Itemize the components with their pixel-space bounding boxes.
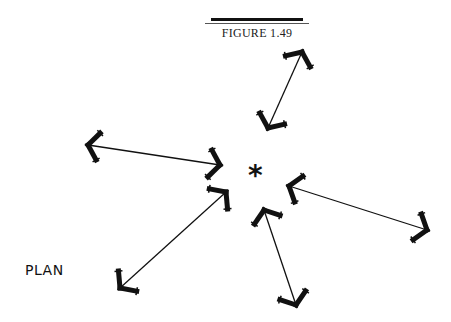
arrow-left (88, 130, 220, 179)
plan-diagram: * (0, 0, 451, 322)
plan-label: PLAN (25, 262, 64, 277)
arrow-lower-left (115, 185, 232, 295)
arrow-top (256, 52, 313, 128)
center-asterisk-icon: * (248, 159, 263, 192)
arrow-right (289, 173, 427, 243)
arrow-bottom (251, 210, 309, 305)
